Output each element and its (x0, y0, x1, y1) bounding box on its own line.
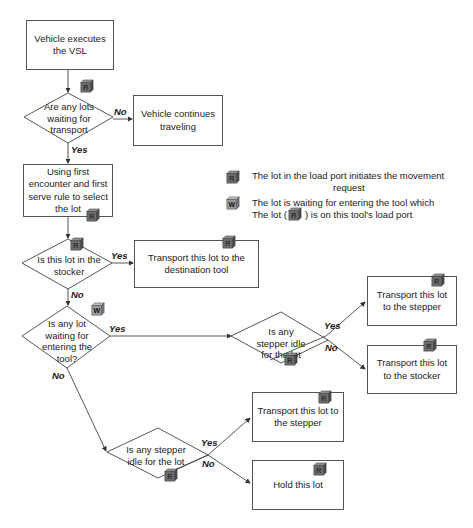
svg-text:R: R (291, 212, 296, 219)
to-stocker-text: Transport this lot to the stocker (372, 357, 452, 382)
edge-label-yes: Yes (71, 144, 88, 155)
q-entering-text: Is any lot waiting for entering the tool… (38, 318, 96, 364)
hold-box: Hold this lot (252, 460, 344, 510)
svg-text:W: W (93, 307, 100, 314)
q-stepper1-text: Is any stepper idle for the lot (252, 326, 310, 361)
w-cube-icon: W (91, 302, 105, 316)
r-cube-icon: R (284, 352, 298, 366)
svg-text:R: R (316, 467, 321, 474)
to-dest-box: Transport this lot to the destination to… (134, 240, 259, 288)
r-cube-icon: R (431, 273, 445, 287)
edge-label-no: No (52, 370, 65, 381)
legend-w-text-2b: ) is on this tool's load port (305, 209, 412, 221)
svg-text:R: R (73, 242, 78, 249)
edge-label-no: No (325, 342, 338, 353)
svg-text:R: R (167, 473, 172, 480)
r-cube-icon: R (313, 462, 327, 476)
start-text: Vehicle executes the VSL (31, 33, 109, 58)
svg-text:R: R (229, 175, 234, 182)
continue-text: Vehicle continues traveling (138, 108, 218, 133)
r-cube-icon: R (318, 390, 332, 404)
r-cube-icon: R (288, 207, 302, 221)
edge-label-no: No (114, 106, 127, 117)
to-stepper1-text: Transport this lot to the stepper (372, 289, 452, 314)
svg-text:R: R (287, 357, 292, 364)
continue-box: Vehicle continues traveling (133, 95, 223, 146)
r-cube-icon: R (222, 235, 236, 249)
legend-w-text-2a: The lot ( (252, 209, 287, 221)
svg-text:R: R (426, 343, 431, 350)
legend-r-text-2: request (333, 182, 365, 194)
svg-text:R: R (434, 278, 439, 285)
legend-w-text-1: The lot is waiting for entering the tool… (252, 197, 434, 209)
r-cube-icon: R (80, 79, 94, 93)
q-stepper2-text: Is any stepper idle for the lot (124, 444, 188, 467)
hold-text: Hold this lot (273, 479, 323, 492)
to-stocker-box: Transport this lot to the stocker (367, 345, 457, 394)
to-stepper2-text: Transport this lot to the stepper (257, 405, 339, 430)
q-stocker-text: Is this lot in the stocker (34, 254, 104, 277)
svg-text:R: R (321, 395, 326, 402)
r-cube-icon: R (86, 208, 100, 222)
svg-text:W: W (228, 201, 235, 208)
edge-label-yes: Yes (324, 320, 341, 331)
r-cube-icon: R (226, 170, 240, 184)
start-box: Vehicle executes the VSL (26, 20, 114, 70)
svg-text:R: R (83, 84, 88, 91)
to-dest-text: Transport this lot to the destination to… (139, 252, 254, 277)
edge-label-yes: Yes (111, 250, 128, 261)
r-cube-icon: R (70, 237, 84, 251)
r-cube-icon: R (423, 338, 437, 352)
edge-label-yes: Yes (201, 437, 218, 448)
q-waiting-text: Are any lots waiting for transport (28, 101, 110, 136)
legend-r-text-1: The lot in the load port initiates the m… (252, 170, 444, 182)
edge-label-yes: Yes (109, 323, 126, 334)
svg-text:R: R (225, 240, 230, 247)
edge-label-no: No (202, 458, 215, 469)
svg-text:R: R (89, 213, 94, 220)
w-cube-icon: W (226, 196, 240, 210)
edge-label-no: No (71, 289, 84, 300)
r-cube-icon: R (164, 468, 178, 482)
